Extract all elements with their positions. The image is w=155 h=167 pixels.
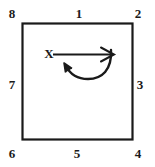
arrow-group <box>0 0 155 167</box>
position-label-5: 5 <box>72 147 82 160</box>
position-label-2: 2 <box>133 7 143 20</box>
position-label-1: 1 <box>74 7 84 20</box>
position-label-7: 7 <box>7 78 17 91</box>
diagram-canvas: 1 2 3 4 5 6 7 8 X <box>0 0 155 167</box>
position-label-6: 6 <box>7 147 17 160</box>
position-label-4: 4 <box>133 147 143 160</box>
position-label-3: 3 <box>135 78 145 91</box>
straight-arrow-icon <box>53 48 114 62</box>
axis-label-x: X <box>43 47 55 60</box>
position-label-8: 8 <box>7 7 17 20</box>
